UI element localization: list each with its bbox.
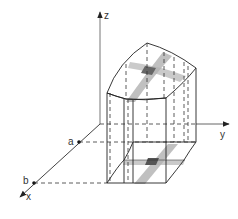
x-axis bbox=[20, 124, 100, 197]
point-a-label: a bbox=[68, 136, 74, 147]
z-axis-label: z bbox=[104, 10, 109, 21]
projection-lines bbox=[34, 124, 196, 183]
diagram-canvas: z y x a b bbox=[0, 0, 238, 219]
axes bbox=[20, 12, 229, 197]
x-axis-label: x bbox=[26, 191, 31, 202]
point-b-label: b bbox=[23, 175, 29, 186]
base-region-shading bbox=[123, 144, 185, 184]
y-axis-label: y bbox=[220, 129, 225, 140]
top-surface-shading bbox=[126, 52, 186, 102]
